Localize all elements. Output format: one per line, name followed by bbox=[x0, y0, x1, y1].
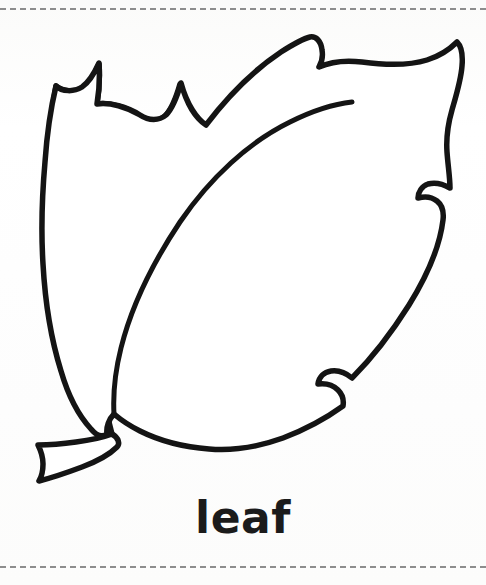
leaf-stem bbox=[38, 434, 119, 481]
leaf-artwork bbox=[0, 0, 486, 500]
cut-line-bottom bbox=[0, 566, 486, 568]
leaf-silhouette bbox=[42, 37, 462, 450]
leaf-drawing-svg bbox=[0, 0, 486, 500]
caption-label: leaf bbox=[0, 496, 486, 540]
coloring-page: leaf bbox=[0, 0, 486, 585]
